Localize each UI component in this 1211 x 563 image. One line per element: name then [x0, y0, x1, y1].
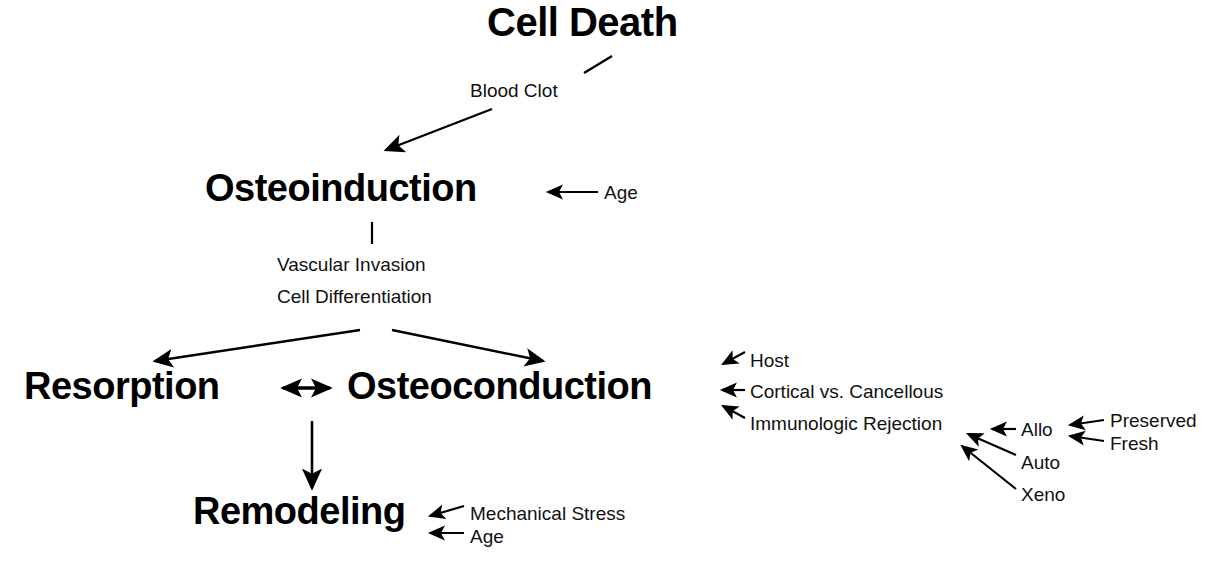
label-cell-differentiation: Cell Differentiation: [277, 287, 432, 306]
label-vascular-invasion: Vascular Invasion: [277, 255, 426, 274]
label-fresh: Fresh: [1110, 434, 1159, 453]
node-osteoinduction: Osteoinduction: [205, 169, 477, 207]
label-immunologic-rejection: Immunologic Rejection: [750, 414, 942, 433]
arrow-xeno-to-immunologic: [962, 446, 1016, 489]
label-host: Host: [750, 351, 789, 370]
arrow-auto-to-immunologic: [968, 434, 1016, 455]
arrow-fork-to-resorption: [155, 330, 360, 361]
arrow-preserved-to-allo: [1070, 420, 1104, 425]
arrow-fork-to-osteoconduction: [392, 330, 543, 361]
arrow-immunologic-to-osteoconduction: [723, 406, 745, 418]
node-remodeling: Remodeling: [193, 492, 405, 530]
label-preserved: Preserved: [1110, 411, 1197, 430]
arrow-celldeath-stub: [584, 56, 612, 73]
label-mechanical-stress: Mechanical Stress: [470, 504, 625, 523]
label-age-remodeling: Age: [470, 527, 504, 546]
arrow-mechanical-to-remodeling: [430, 506, 464, 516]
label-cortical-vs-cancellous: Cortical vs. Cancellous: [750, 382, 943, 401]
arrow-layer: [0, 0, 1211, 563]
node-cell-death: Cell Death: [487, 2, 678, 42]
diagram-canvas: Cell Death Osteoinduction Resorption Ost…: [0, 0, 1211, 563]
node-resorption: Resorption: [24, 367, 220, 405]
arrow-host-to-osteoconduction: [723, 352, 745, 364]
label-blood-clot: Blood Clot: [470, 81, 558, 100]
label-xeno: Xeno: [1021, 485, 1065, 504]
arrow-celldeath-to-osteoinduction: [386, 109, 492, 150]
arrow-fresh-to-allo: [1070, 436, 1104, 441]
label-auto: Auto: [1021, 453, 1060, 472]
label-age-osteoinduction: Age: [604, 183, 638, 202]
label-allo: Allo: [1021, 420, 1053, 439]
node-osteoconduction: Osteoconduction: [347, 367, 652, 405]
